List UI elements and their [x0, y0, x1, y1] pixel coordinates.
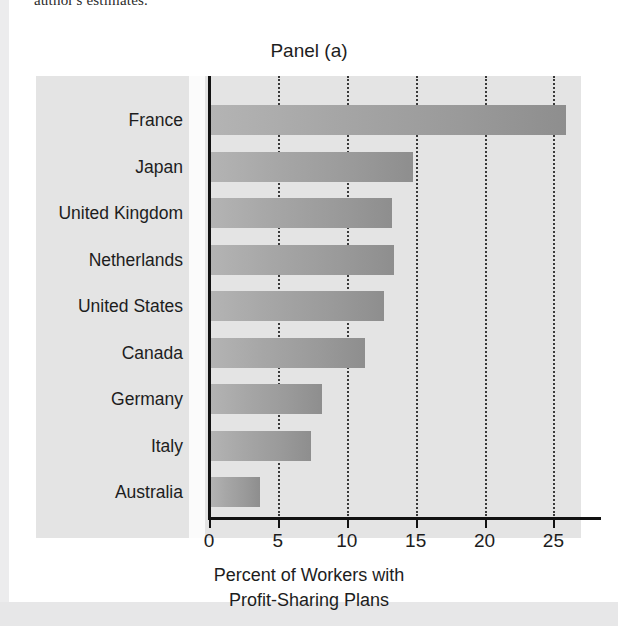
x-axis-line: [208, 517, 601, 520]
category-label-netherlands: Netherlands: [89, 249, 183, 270]
x-tick-label-25: 25: [543, 530, 564, 552]
x-tick-label-15: 15: [405, 530, 426, 552]
category-label-canada: Canada: [122, 342, 183, 363]
bar-germany: [209, 384, 322, 414]
label-gutter: [189, 76, 205, 538]
category-label-france: France: [129, 110, 183, 131]
bar-united-kingdom: [209, 198, 392, 228]
bar-united-states: [209, 291, 384, 321]
x-tick-15: [416, 517, 418, 528]
plot-area: [209, 76, 581, 516]
x-tick-label-10: 10: [336, 530, 357, 552]
figure-panel-a: Panel (a) FranceJapanUnited KingdomNethe…: [9, 18, 609, 596]
x-tick-5: [278, 517, 280, 528]
category-axis-labels: FranceJapanUnited KingdomNetherlandsUnit…: [36, 76, 189, 538]
category-label-japan: Japan: [135, 156, 183, 177]
gridline-25: [553, 76, 555, 516]
bar-australia: [209, 477, 260, 507]
x-axis-title-line-2: Profit-Sharing Plans: [9, 588, 609, 613]
page-edge-strip: [0, 0, 9, 602]
bar-canada: [209, 338, 365, 368]
x-tick-20: [485, 517, 487, 528]
category-label-germany: Germany: [111, 389, 183, 410]
x-tick-0: [209, 517, 211, 528]
bar-italy: [209, 431, 311, 461]
category-label-italy: Italy: [151, 435, 183, 456]
x-axis-title: Percent of Workers with Profit-Sharing P…: [9, 563, 609, 613]
bar-netherlands: [209, 245, 394, 275]
x-tick-label-20: 20: [474, 530, 495, 552]
x-tick-25: [553, 517, 555, 528]
panel-title: Panel (a): [9, 40, 609, 62]
y-axis-line: [208, 76, 211, 519]
category-label-united-kingdom: United Kingdom: [58, 203, 183, 224]
category-label-united-states: United States: [78, 296, 183, 317]
x-tick-10: [347, 517, 349, 528]
bar-france: [209, 105, 566, 135]
x-tick-label-0: 0: [204, 530, 215, 552]
gridline-15: [416, 76, 418, 516]
category-label-australia: Australia: [115, 482, 183, 503]
caption-text-fragment: author's estimates.: [34, 0, 148, 9]
gridline-20: [485, 76, 487, 516]
bar-japan: [209, 152, 413, 182]
x-axis-title-line-1: Percent of Workers with: [9, 563, 609, 588]
x-tick-label-5: 5: [273, 530, 284, 552]
